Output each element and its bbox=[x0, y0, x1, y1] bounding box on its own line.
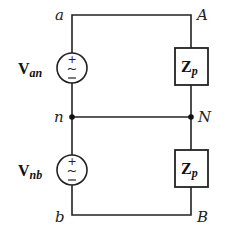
wire-bottom bbox=[72, 185, 191, 215]
circuit-diagram: + ~ Van + ~ Vnb Zp Zp a A n N b B bbox=[0, 0, 226, 245]
source-nb: + ~ bbox=[57, 155, 87, 185]
junction-n bbox=[69, 114, 75, 120]
wires bbox=[72, 15, 191, 215]
node-label-A: A bbox=[195, 6, 208, 24]
node-label-a: a bbox=[55, 6, 64, 24]
load-top: Zp bbox=[175, 48, 208, 85]
wire-top bbox=[72, 15, 191, 53]
node-label-B: B bbox=[196, 208, 208, 226]
label-V-an: Van bbox=[18, 60, 43, 80]
ac-tilde-icon: ~ bbox=[67, 61, 78, 76]
load-bottom: Zp bbox=[175, 150, 208, 187]
junction-N bbox=[188, 114, 194, 120]
label-V-nb: Vnb bbox=[18, 162, 42, 182]
ac-tilde-icon: ~ bbox=[67, 163, 78, 178]
node-label-N: N bbox=[197, 108, 212, 126]
source-an: + ~ bbox=[57, 53, 87, 83]
node-label-n: n bbox=[54, 108, 64, 126]
node-label-b: b bbox=[55, 208, 65, 226]
